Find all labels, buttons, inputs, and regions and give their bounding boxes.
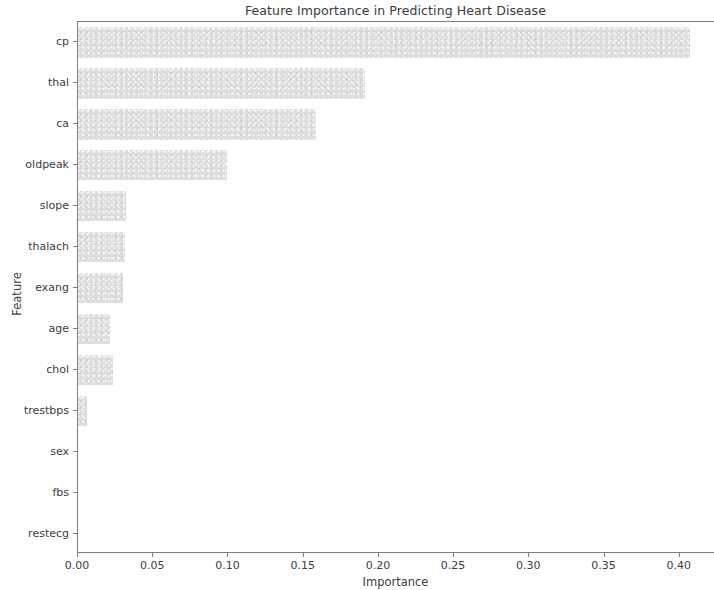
bar-age (78, 314, 110, 345)
y-tick-mark (73, 328, 77, 329)
y-tick-label-trestbps: trestbps (24, 403, 69, 416)
y-tick-label-cp: cp (56, 35, 69, 48)
y-tick-label-fbs: fbs (52, 485, 69, 498)
y-tick-label-sex: sex (50, 444, 69, 457)
y-tick-mark (73, 533, 77, 534)
y-tick-mark (73, 410, 77, 411)
y-tick-mark (73, 164, 77, 165)
x-tick-label-0.10: 0.10 (197, 559, 257, 572)
x-tick-label-0.00: 0.00 (47, 559, 107, 572)
y-tick-mark (73, 492, 77, 493)
y-tick-mark (73, 205, 77, 206)
bar-thal (78, 68, 365, 99)
bar-cp (78, 27, 690, 58)
x-tick-label-0.40: 0.40 (649, 559, 709, 572)
bar-slope (78, 191, 126, 222)
bar-row (78, 227, 714, 268)
bar-row (78, 63, 714, 104)
bar-row (78, 390, 714, 431)
y-tick-label-thalach: thalach (28, 240, 69, 253)
y-tick-mark (73, 246, 77, 247)
y-tick-label-slope: slope (40, 199, 69, 212)
bar-row (78, 472, 714, 513)
chart-title: Feature Importance in Predicting Heart D… (77, 3, 714, 18)
bar-oldpeak (78, 150, 227, 181)
bar-row (78, 104, 714, 145)
x-axis-label: Importance (77, 575, 714, 589)
bar-row (78, 22, 714, 63)
bar-exang (78, 273, 123, 304)
x-tick-mark (152, 553, 153, 557)
bar-row (78, 186, 714, 227)
x-tick-mark (528, 553, 529, 557)
bar-row (78, 145, 714, 186)
bar-ca (78, 109, 316, 140)
x-tick-mark (227, 553, 228, 557)
y-tick-mark (73, 82, 77, 83)
y-tick-mark (73, 123, 77, 124)
x-tick-label-0.05: 0.05 (122, 559, 182, 572)
bar-trestbps (78, 396, 87, 427)
bar-chol (78, 355, 113, 386)
y-tick-label-exang: exang (35, 281, 69, 294)
y-tick-mark (73, 369, 77, 370)
x-tick-label-0.30: 0.30 (498, 559, 558, 572)
x-tick-label-0.35: 0.35 (574, 559, 634, 572)
x-tick-mark (378, 553, 379, 557)
y-tick-label-chol: chol (46, 362, 69, 375)
y-tick-label-ca: ca (56, 117, 69, 130)
x-tick-mark (604, 553, 605, 557)
bar-row (78, 268, 714, 309)
bar-row (78, 308, 714, 349)
bar-row (78, 513, 714, 554)
plot-area (77, 21, 714, 553)
y-tick-mark (73, 41, 77, 42)
x-tick-mark (77, 553, 78, 557)
x-tick-label-0.25: 0.25 (423, 559, 483, 572)
bar-thalach (78, 232, 125, 263)
y-tick-label-restecg: restecg (28, 526, 69, 539)
bar-row (78, 431, 714, 472)
y-axis-label: Feature (10, 264, 24, 324)
x-tick-label-0.15: 0.15 (273, 559, 333, 572)
bar-row (78, 349, 714, 390)
y-tick-mark (73, 451, 77, 452)
x-tick-mark (303, 553, 304, 557)
figure-canvas: Feature Importance in Predicting Heart D… (0, 0, 714, 590)
y-tick-mark (73, 287, 77, 288)
x-tick-label-0.20: 0.20 (348, 559, 408, 572)
x-tick-mark (679, 553, 680, 557)
y-tick-label-oldpeak: oldpeak (25, 158, 69, 171)
x-tick-mark (453, 553, 454, 557)
y-tick-label-thal: thal (48, 76, 69, 89)
y-tick-label-age: age (49, 321, 70, 334)
